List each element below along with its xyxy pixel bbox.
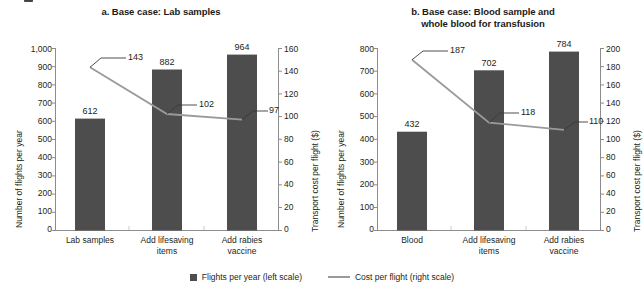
figure-legend: Flights per year (left scale) Cost per f… xyxy=(0,272,644,282)
panel-b-cat-line1: Add rabies xyxy=(544,235,585,245)
panel-b-line-value: 187 xyxy=(450,45,465,55)
panel-b-plot-area xyxy=(322,0,644,268)
panel-a-plot-area xyxy=(0,0,322,268)
panel-a-category-label: Add rabies vaccine xyxy=(206,235,278,257)
panel-a-line-value: 97 xyxy=(269,105,279,115)
panel-a-line-value: 143 xyxy=(128,52,143,62)
panel-a-bar-value: 882 xyxy=(147,57,187,67)
panel-b-category-label: Add lifesaving items xyxy=(450,235,528,257)
legend-line-icon xyxy=(328,276,350,278)
legend-square-icon xyxy=(190,274,197,281)
legend-item-line: Cost per flight (right scale) xyxy=(328,272,454,282)
panel-a-left-ticks xyxy=(52,49,56,231)
panel-a-cat-line2: vaccine xyxy=(228,246,257,256)
chart-panel-b: b. Base case: Blood sample and whole blo… xyxy=(322,0,644,268)
panel-b-line-value: 110 xyxy=(589,116,603,126)
panel-a-cat-line2: items xyxy=(157,246,177,256)
chart-panel-a: a. Base case: Lab samples Number of flig… xyxy=(0,0,322,268)
panel-b-cat-line1: Add lifesaving xyxy=(463,235,516,245)
panel-a-leader-1 xyxy=(90,58,126,67)
panel-b-cat-line2: vaccine xyxy=(550,246,579,256)
panel-b-bar-value: 784 xyxy=(544,39,584,49)
panel-b-right-ticks xyxy=(601,49,605,231)
figure-root: a. Base case: Lab samples Number of flig… xyxy=(0,0,644,301)
panel-a-line-value: 102 xyxy=(199,99,214,109)
panel-b-bar-2 xyxy=(474,70,504,230)
panel-b-leader-1 xyxy=(412,51,448,60)
panel-b-bar-1 xyxy=(397,132,427,231)
legend-bars-label: Flights per year (left scale) xyxy=(202,272,302,282)
panel-a-bar-value: 964 xyxy=(222,42,262,52)
panel-b-left-ticks xyxy=(374,49,378,231)
legend-line-label: Cost per flight (right scale) xyxy=(355,272,454,282)
panel-a-category-label: Add lifesaving items xyxy=(128,235,206,257)
panel-b-cat-line2: items xyxy=(479,246,499,256)
panel-a-bar-value: 612 xyxy=(70,106,110,116)
panel-a-right-ticks xyxy=(279,49,283,231)
panel-a-cat-line1: Lab samples xyxy=(66,235,114,245)
panel-b-category-label: Blood xyxy=(380,235,444,246)
panel-a-category-label: Lab samples xyxy=(55,235,125,246)
panel-a-cat-line1: Add lifesaving xyxy=(141,235,194,245)
panel-a-bar-2 xyxy=(152,70,182,231)
panel-b-cat-line1: Blood xyxy=(401,235,423,245)
panel-b-line-value: 118 xyxy=(521,107,535,117)
panel-b-bar-value: 432 xyxy=(392,119,432,129)
panel-b-category-label: Add rabies vaccine xyxy=(528,235,600,257)
panel-b-bar-3 xyxy=(549,52,579,231)
panel-b-bar-value: 702 xyxy=(469,58,509,68)
legend-item-bars: Flights per year (left scale) xyxy=(190,272,302,282)
panel-a-cat-line1: Add rabies xyxy=(222,235,263,245)
panel-a-bar-3 xyxy=(227,55,257,231)
panel-a-bar-1 xyxy=(75,119,105,231)
